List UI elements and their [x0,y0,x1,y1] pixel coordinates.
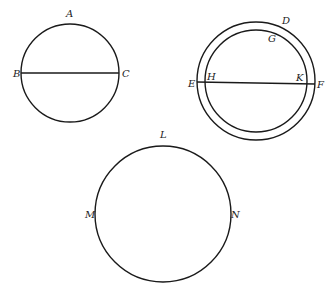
label-f: F [316,79,325,90]
inner-circle-ghk [205,30,307,132]
figure-circle-abc: A B C [12,8,130,122]
label-b: B [12,68,20,79]
label-m: M [84,209,96,220]
circle-lmn [95,146,231,282]
label-d: D [281,15,290,26]
label-l: L [159,129,167,140]
figure-concentric-circles: D G E H K F [187,15,325,140]
label-e: E [187,78,196,89]
label-a: A [65,8,73,19]
label-g: G [268,33,276,44]
label-h: H [206,71,216,82]
label-k: K [295,72,304,83]
figure-circle-lmn: L M N [84,129,241,282]
geometry-diagram: A B C D G E H K F L M N [0,0,333,296]
label-c: C [122,68,130,79]
label-n: N [230,209,241,220]
